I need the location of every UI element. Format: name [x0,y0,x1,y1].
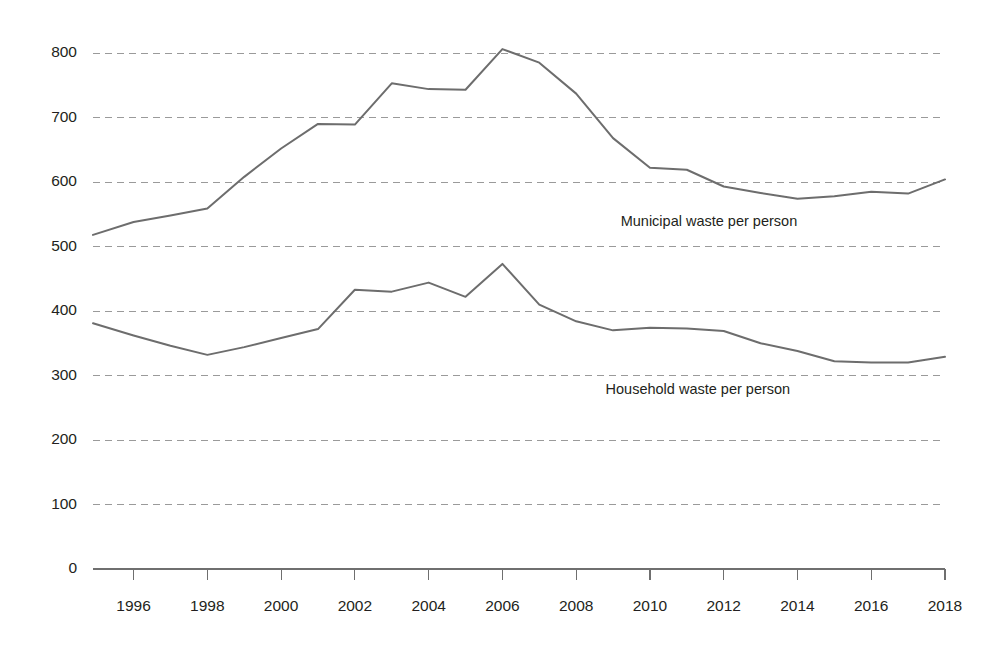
x-tick-label-2002: 2002 [338,597,372,614]
x-tick-label-2018: 2018 [928,597,962,614]
x-tick-label-2004: 2004 [411,597,446,614]
y-axis-tick-labels: 0100200300400500600700800 [51,43,77,576]
y-tick-label-500: 500 [51,237,77,254]
series-label-household: Household waste per person [606,381,791,397]
y-tick-label-0: 0 [68,559,77,576]
series-line-household [93,264,945,363]
series-line-municipal [93,49,945,235]
x-tick-label-2014: 2014 [780,597,815,614]
y-tick-label-800: 800 [51,43,77,60]
x-tick-label-2012: 2012 [706,597,740,614]
x-tick-label-2006: 2006 [485,597,519,614]
x-tick-label-1998: 1998 [190,597,224,614]
x-tick-label-2010: 2010 [633,597,668,614]
line-chart-figure: 0100200300400500600700800 19961998200020… [0,0,1000,658]
series-label-municipal: Municipal waste per person [621,213,798,229]
y-tick-label-200: 200 [51,430,77,447]
x-axis-tick-labels: 1996199820002002200420062008201020122014… [116,597,962,614]
data-series-lines [93,49,945,362]
y-tick-label-400: 400 [51,301,77,318]
x-axis [93,569,945,580]
y-tick-label-300: 300 [51,366,77,383]
gridlines [93,53,945,505]
y-tick-label-600: 600 [51,172,77,189]
x-tick-label-1996: 1996 [116,597,150,614]
series-inline-labels: Municipal waste per personHousehold wast… [606,213,798,397]
x-tick-label-2016: 2016 [854,597,888,614]
y-tick-label-100: 100 [51,495,77,512]
chart-canvas: 0100200300400500600700800 19961998200020… [0,0,1000,658]
y-tick-label-700: 700 [51,108,77,125]
x-tick-label-2008: 2008 [559,597,593,614]
x-tick-label-2000: 2000 [264,597,299,614]
